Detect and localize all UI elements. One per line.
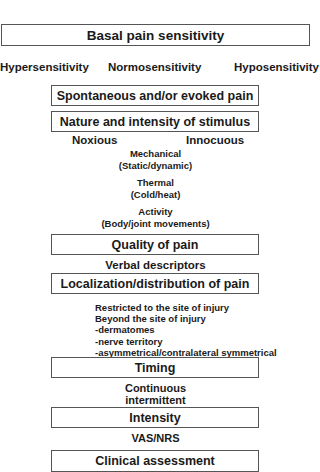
timing-box: Timing — [51, 357, 259, 378]
clinical-assessment-box: Clinical assessment — [51, 450, 259, 472]
intensity-title: Intensity — [129, 411, 180, 425]
hyposensitivity-label: Hyposensitivity — [234, 61, 319, 73]
spontaneous-pain-box: Spontaneous and/or evoked pain — [51, 85, 259, 106]
basal-pain-box: Basal pain sensitivity — [1, 24, 310, 46]
noxious-label: Noxious — [72, 134, 117, 146]
hypersensitivity-label: Hypersensitivity — [0, 61, 89, 73]
localization-list: Restricted to the site of injury Beyond … — [95, 302, 277, 358]
localization-item: -nerve territory — [95, 336, 277, 347]
basal-pain-title: Basal pain sensitivity — [87, 28, 224, 43]
quality-pain-box: Quality of pain — [51, 234, 259, 255]
localization-item: -dermatomes — [95, 324, 277, 335]
timing-continuous: Continuous — [0, 383, 311, 395]
spontaneous-pain-title: Spontaneous and/or evoked pain — [57, 89, 254, 103]
activity-detail: (Body/joint movements) — [0, 218, 311, 230]
localization-title: Localization/distribution of pain — [61, 277, 250, 291]
intensity-box: Intensity — [51, 407, 259, 428]
nature-stimulus-title: Nature and intensity of stimulus — [60, 115, 250, 129]
timing-intermittent: intermittent — [0, 395, 311, 407]
localization-item: Restricted to the site of injury — [95, 302, 277, 313]
activity-label: Activity — [0, 206, 311, 218]
activity-item: Activity (Body/joint movements) — [0, 206, 311, 229]
localization-item: Beyond the site of injury — [95, 313, 277, 324]
normosensitivity-label: Normosensitivity — [108, 61, 201, 73]
innocuous-label: Innocuous — [186, 134, 244, 146]
verbal-descriptors-label: Verbal descriptors — [0, 259, 311, 271]
timing-details: Continuous intermittent — [0, 383, 311, 406]
thermal-detail: (Cold/heat) — [0, 189, 311, 201]
clinical-assessment-title: Clinical assessment — [95, 454, 215, 468]
thermal-item: Thermal (Cold/heat) — [0, 177, 311, 200]
nature-stimulus-box: Nature and intensity of stimulus — [51, 111, 259, 132]
thermal-label: Thermal — [0, 177, 311, 189]
vas-nrs-label: VAS/NRS — [0, 432, 311, 444]
timing-title: Timing — [135, 361, 176, 375]
quality-pain-title: Quality of pain — [112, 238, 199, 252]
mechanical-item: Mechanical (Static/dynamic) — [0, 148, 311, 171]
mechanical-label: Mechanical — [0, 148, 311, 160]
mechanical-detail: (Static/dynamic) — [0, 160, 311, 172]
localization-box: Localization/distribution of pain — [51, 273, 259, 294]
